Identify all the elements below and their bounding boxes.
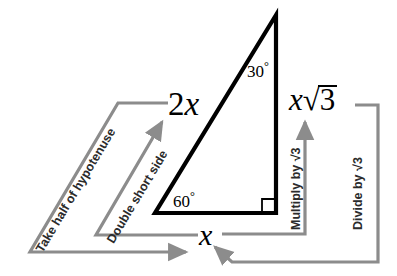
flow-label-multiply-by-sqrt3: Multiply by √3 (290, 147, 303, 230)
radical-glyph: √ (303, 82, 320, 117)
hypotenuse-variable: x (185, 86, 200, 122)
label-short-leg-x: x (199, 220, 212, 250)
angle-label-60: 60° (173, 190, 195, 210)
long-leg-variable: x (289, 82, 303, 117)
radical-sign-icon: √3 (303, 84, 336, 115)
label-long-leg-x-sqrt3: x√3 (289, 84, 335, 115)
label-hypotenuse-2x: 2x (168, 88, 199, 121)
radicand: 3 (320, 82, 336, 117)
radical-vinculum (318, 85, 337, 87)
angle-label-30: 30° (247, 60, 269, 80)
degree-symbol-icon: ° (190, 189, 195, 203)
flow-label-divide-by-sqrt3: Divide by √3 (352, 157, 365, 230)
angle-30-value: 30 (247, 62, 264, 81)
angle-60-value: 60 (173, 192, 190, 211)
hypotenuse-coefficient: 2 (168, 86, 185, 122)
degree-symbol-icon: ° (264, 59, 269, 73)
diagram-canvas: 2x x x√3 30° 60° Take half of hypotenuse… (0, 0, 397, 276)
short-leg-variable: x (199, 218, 212, 251)
